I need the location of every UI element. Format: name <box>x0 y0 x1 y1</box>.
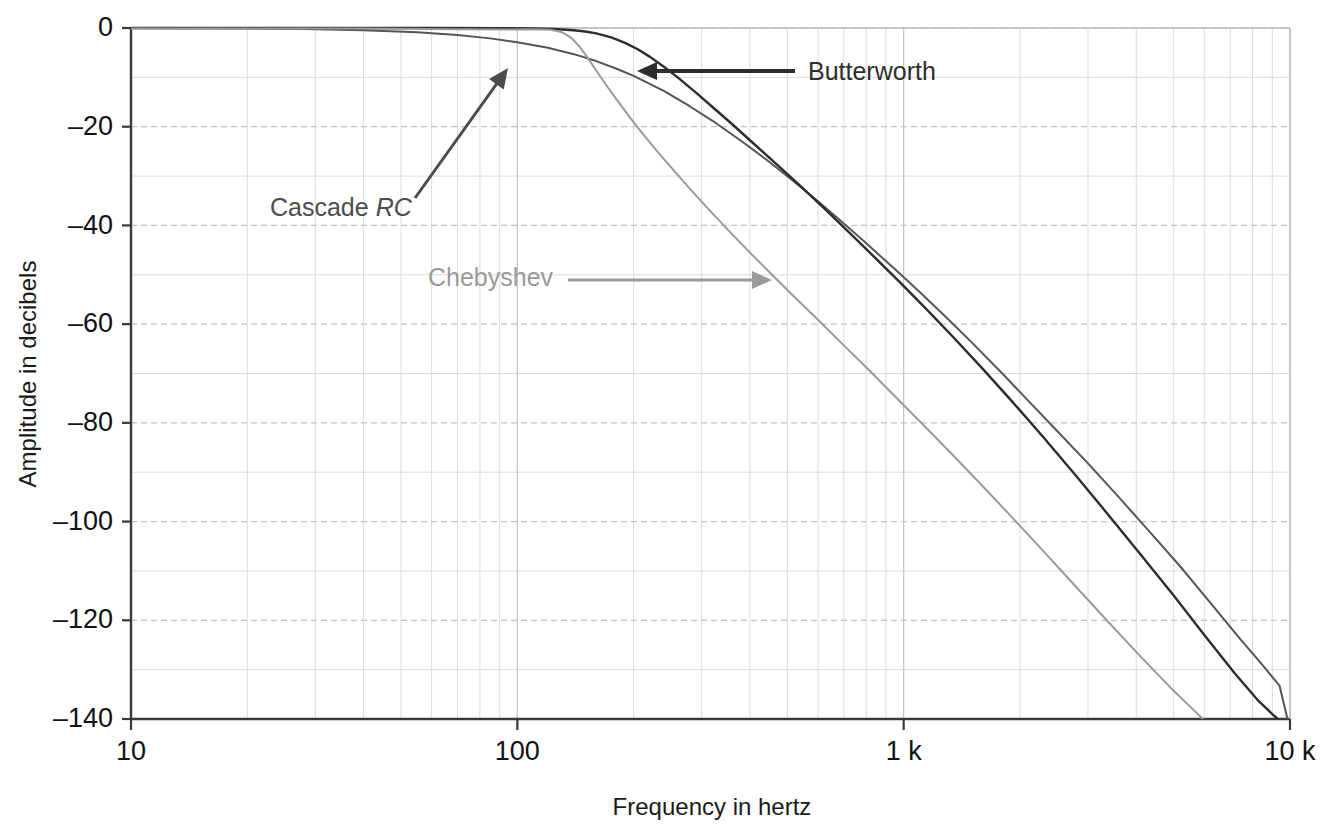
filter-response-chart: ButterworthCascade RCChebyshev 0–20–40–6… <box>0 0 1336 837</box>
x-tick-label: 10 k <box>1264 736 1316 766</box>
y-tick-label: –20 <box>68 111 113 141</box>
annotation-label-plain: Cascade <box>270 193 376 221</box>
chart-background <box>0 0 1336 837</box>
y-axis-title: Amplitude in decibels <box>14 261 41 488</box>
x-axis-title: Frequency in hertz <box>613 793 812 820</box>
y-tick-label: –100 <box>53 506 113 536</box>
y-tick-label: –140 <box>53 703 113 733</box>
x-tick-label: 100 <box>495 736 540 766</box>
annotation-label: Butterworth <box>808 57 936 85</box>
x-tick-label: 10 <box>116 736 146 766</box>
y-tick-label: –80 <box>68 407 113 437</box>
y-tick-label: –40 <box>68 210 113 240</box>
annotation-label: Chebyshev <box>428 263 554 291</box>
annotation-label: Cascade RC <box>270 193 413 221</box>
chart-root: ButterworthCascade RCChebyshev 0–20–40–6… <box>0 0 1336 837</box>
y-tick-label: –120 <box>53 604 113 634</box>
y-tick-label: –60 <box>68 308 113 338</box>
annotation-label-italic: RC <box>376 193 413 221</box>
x-tick-label: 1 k <box>886 736 923 766</box>
y-tick-label: 0 <box>98 12 113 42</box>
